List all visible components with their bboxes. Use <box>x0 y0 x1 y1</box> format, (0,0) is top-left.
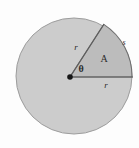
circle-sector-diagram: r θ A s r <box>0 0 139 148</box>
label-angle-theta: θ <box>78 63 83 74</box>
label-radius-upper: r <box>74 42 78 52</box>
label-area: A <box>100 53 108 64</box>
label-arc-length: s <box>122 38 125 47</box>
label-radius-lower: r <box>104 80 108 90</box>
center-dot <box>67 74 73 80</box>
